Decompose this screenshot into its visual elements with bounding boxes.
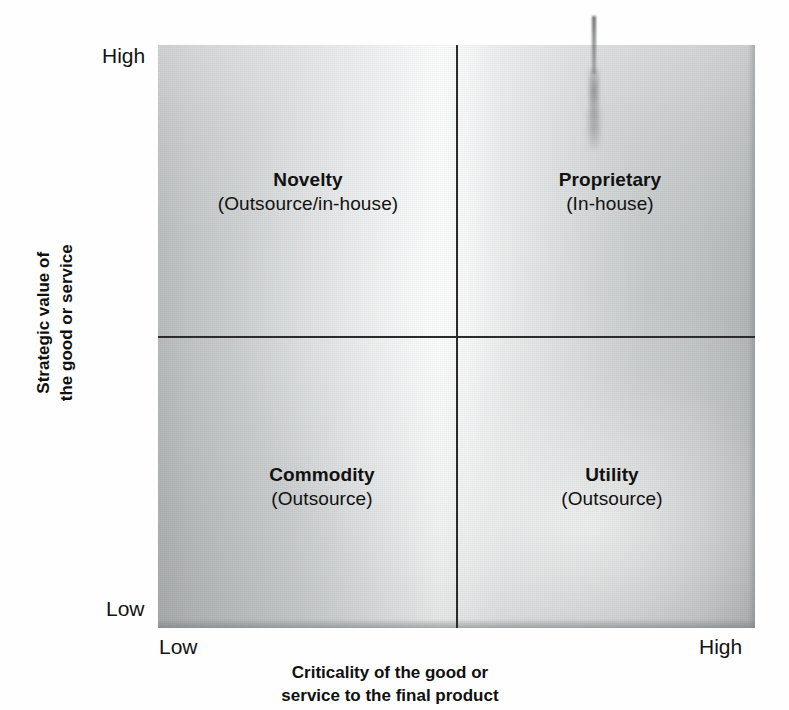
quadrant-label-novelty: Novelty (Outsource/in-house) [188, 168, 428, 216]
quadrant-title-novelty: Novelty [188, 168, 428, 192]
x-axis-title: Criticality of the good or service to th… [180, 662, 600, 708]
quadrant-title-proprietary: Proprietary [500, 168, 720, 192]
y-axis-title-line1: Strategic value of [33, 173, 56, 473]
quadrant-label-proprietary: Proprietary (In-house) [500, 168, 720, 216]
x-axis-title-line2: service to the final product [180, 685, 600, 708]
quadrant-title-commodity: Commodity [222, 463, 422, 487]
x-axis-title-line1: Criticality of the good or [180, 662, 600, 685]
quadrant-label-commodity: Commodity (Outsource) [222, 463, 422, 511]
quadrant-subtitle-novelty: (Outsource/in-house) [188, 192, 428, 216]
diagram-canvas: Novelty (Outsource/in-house) Proprietary… [0, 0, 789, 710]
x-axis-tick-low: Low [159, 635, 198, 659]
quadrant-subtitle-utility: (Outsource) [512, 487, 712, 511]
y-axis-title-line2: the good or service [56, 173, 79, 473]
quadrant-subtitle-commodity: (Outsource) [222, 487, 422, 511]
y-axis-tick-low: Low [106, 597, 145, 621]
y-axis-title: Strategic value of the good or service [33, 173, 79, 473]
quadrant-subtitle-proprietary: (In-house) [500, 192, 720, 216]
x-axis-tick-high: High [699, 635, 742, 659]
quadrant-label-utility: Utility (Outsource) [512, 463, 712, 511]
vertical-divider-line [456, 45, 458, 628]
y-axis-tick-high: High [102, 44, 145, 68]
quadrant-title-utility: Utility [512, 463, 712, 487]
